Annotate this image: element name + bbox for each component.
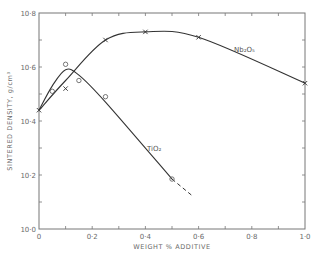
x-tick-label: 0·8 [246, 233, 257, 241]
x-tick-label: 1·0 [299, 233, 310, 241]
x-axis-title: WEIGHT % ADDITIVE [133, 243, 211, 251]
x-marker [63, 86, 67, 90]
plot-frame [39, 13, 305, 229]
axis-ticks [39, 13, 305, 229]
plot-border [39, 13, 305, 229]
y-tick-label: 10·6 [20, 64, 36, 72]
circle-marker [50, 89, 54, 93]
series-label-nb2o5: Nb₂O₅ [234, 46, 255, 54]
circle-marker [77, 78, 81, 82]
curve-nb2o5 [39, 31, 305, 110]
circle-marker [103, 95, 107, 99]
density-chart: 00·20·40·60·81·0 10·010·210·410·610·8 WE… [0, 0, 318, 254]
x-marker [103, 38, 107, 42]
x-tick-labels: 00·20·40·60·81·0 [37, 233, 311, 241]
y-axis-title: SINTERED DENSITY, g/cm³ [6, 71, 14, 170]
circle-marker [63, 62, 67, 66]
series-markers [37, 30, 307, 182]
y-tick-labels: 10·010·210·410·610·8 [20, 10, 36, 234]
x-tick-label: 0·6 [193, 233, 205, 241]
y-tick-label: 10·0 [20, 226, 36, 234]
x-tick-label: 0 [37, 233, 41, 241]
series-label-tio2: TiO₂ [146, 145, 162, 153]
x-tick-label: 0·2 [87, 233, 98, 241]
series-curves [39, 31, 305, 196]
y-tick-label: 10·2 [20, 172, 36, 180]
curve-tio2-extrapolation [172, 179, 193, 197]
y-tick-label: 10·4 [20, 118, 36, 126]
y-tick-label: 10·8 [20, 10, 36, 18]
x-tick-label: 0·4 [140, 233, 152, 241]
curve-tio2 [39, 69, 172, 179]
